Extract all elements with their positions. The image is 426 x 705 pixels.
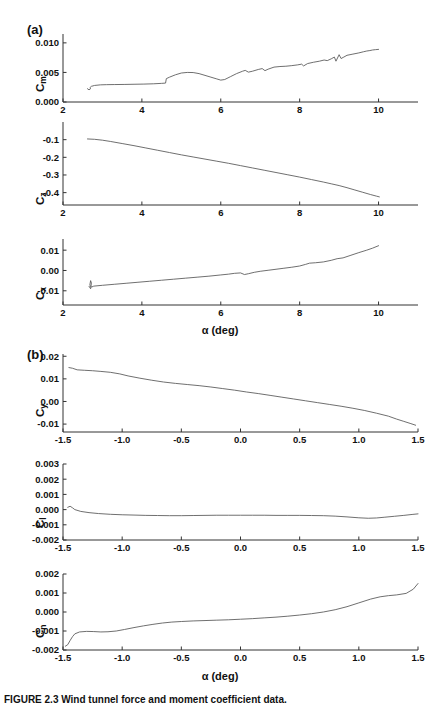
svg-text:-0.1: -0.1 (43, 134, 60, 145)
svg-text:1.0: 1.0 (352, 542, 365, 553)
xlabel-panel-b: α (deg) (175, 670, 265, 682)
plot-cx: -0.010.000.01246810 (0, 233, 426, 323)
svg-text:-0.01: -0.01 (37, 285, 59, 296)
chart-cl: -0.002-0.0010.0000.0010.0020.003-1.5-1.0… (0, 458, 426, 558)
svg-text:10: 10 (373, 104, 384, 115)
svg-text:0.0: 0.0 (234, 652, 247, 663)
svg-text:0.003: 0.003 (35, 458, 59, 469)
svg-text:4: 4 (139, 307, 145, 318)
svg-text:0.000: 0.000 (35, 606, 59, 617)
svg-text:-0.001: -0.001 (32, 519, 60, 530)
svg-text:8: 8 (297, 104, 302, 115)
svg-text:6: 6 (218, 207, 223, 218)
svg-text:0.002: 0.002 (35, 474, 59, 485)
svg-text:0.5: 0.5 (293, 542, 307, 553)
svg-text:-0.2: -0.2 (43, 152, 59, 163)
svg-text:4: 4 (139, 104, 145, 115)
svg-text:2: 2 (60, 207, 65, 218)
svg-text:0.000: 0.000 (35, 504, 59, 515)
svg-text:-0.01: -0.01 (37, 418, 59, 429)
svg-text:1.0: 1.0 (352, 434, 365, 445)
svg-text:1.5: 1.5 (411, 652, 425, 663)
svg-text:1.0: 1.0 (352, 652, 365, 663)
svg-text:-0.5: -0.5 (173, 542, 190, 553)
figure-container: (a) Cm 0.0000.0050.010246810 Cz -0.1-0.2… (0, 0, 426, 705)
svg-text:0.01: 0.01 (41, 373, 60, 384)
svg-text:-1.5: -1.5 (55, 652, 72, 663)
svg-text:10: 10 (373, 307, 384, 318)
svg-text:0.01: 0.01 (41, 245, 60, 256)
svg-text:6: 6 (218, 104, 223, 115)
svg-text:2: 2 (60, 307, 65, 318)
chart-cx: -0.010.000.01246810 (0, 233, 426, 323)
svg-text:-0.001: -0.001 (32, 625, 60, 636)
svg-text:-1.0: -1.0 (114, 434, 130, 445)
svg-text:0.00: 0.00 (41, 396, 60, 407)
panel-a: (a) Cm 0.0000.0050.010246810 Cz -0.1-0.2… (0, 0, 426, 340)
svg-text:6: 6 (218, 307, 223, 318)
figure-caption: FIGURE 2.3 Wind tunnel force and moment … (4, 694, 426, 705)
svg-text:0.02: 0.02 (41, 351, 60, 362)
svg-text:-1.5: -1.5 (55, 542, 72, 553)
svg-text:-0.5: -0.5 (173, 652, 190, 663)
svg-text:-1.0: -1.0 (114, 542, 130, 553)
svg-text:-1.0: -1.0 (114, 652, 130, 663)
svg-text:8: 8 (297, 307, 302, 318)
chart-cz: -0.1-0.2-0.3-0.4246810 (0, 118, 426, 223)
svg-text:1.5: 1.5 (411, 542, 425, 553)
svg-text:-0.3: -0.3 (43, 169, 59, 180)
svg-text:2: 2 (60, 104, 65, 115)
svg-text:0.0: 0.0 (234, 434, 247, 445)
plot-cz: -0.1-0.2-0.3-0.4246810 (0, 118, 426, 223)
svg-text:-0.5: -0.5 (173, 434, 190, 445)
svg-text:0.005: 0.005 (35, 67, 59, 78)
svg-text:4: 4 (139, 207, 145, 218)
svg-text:0.000: 0.000 (35, 96, 59, 107)
plot-cl: -0.002-0.0010.0000.0010.0020.003-1.5-1.0… (0, 458, 426, 558)
chart-cn: -0.002-0.0010.0000.0010.002-1.5-1.0-0.50… (0, 568, 426, 668)
plot-cy: -0.010.000.010.02-1.5-1.0-0.50.00.51.01.… (0, 348, 426, 450)
svg-text:0.5: 0.5 (293, 434, 307, 445)
svg-text:10: 10 (373, 207, 384, 218)
panel-b: (b) Cy -0.010.000.010.02-1.5-1.0-0.50.00… (0, 340, 426, 690)
svg-text:1.5: 1.5 (411, 434, 425, 445)
svg-text:8: 8 (297, 207, 302, 218)
plot-cm: 0.0000.0050.010246810 (0, 28, 426, 120)
xlabel-panel-a: α (deg) (175, 324, 265, 336)
svg-text:0.001: 0.001 (35, 587, 59, 598)
svg-text:0.00: 0.00 (41, 265, 60, 276)
svg-text:-1.5: -1.5 (55, 434, 72, 445)
plot-cn: -0.002-0.0010.0000.0010.002-1.5-1.0-0.50… (0, 568, 426, 668)
svg-text:0.0: 0.0 (234, 542, 247, 553)
svg-text:0.002: 0.002 (35, 568, 59, 579)
chart-cm: 0.0000.0050.010246810 (0, 28, 426, 120)
chart-cy: -0.010.000.010.02-1.5-1.0-0.50.00.51.01.… (0, 348, 426, 450)
svg-text:0.001: 0.001 (35, 489, 59, 500)
svg-text:-0.4: -0.4 (43, 187, 60, 198)
svg-text:0.5: 0.5 (293, 652, 307, 663)
svg-text:0.010: 0.010 (35, 37, 59, 48)
